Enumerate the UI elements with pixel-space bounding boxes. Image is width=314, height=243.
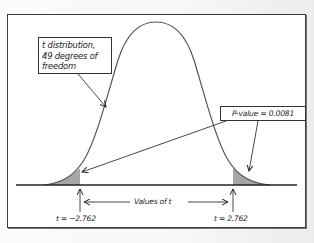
pvalue-right-arrow	[249, 121, 258, 171]
right-tail-shade	[233, 168, 270, 185]
diagram-canvas: t distribution, 49 degrees of freedom P-…	[0, 0, 314, 243]
distribution-pointer-arrow	[78, 74, 106, 107]
distribution-label-line1: t distribution,	[42, 40, 108, 51]
axis-caption: Values of t	[134, 197, 171, 206]
distribution-label-line2: 49 degrees of	[42, 51, 108, 62]
left-critical-value: t = −2.762	[56, 214, 96, 223]
pvalue-left-arrow	[82, 121, 226, 172]
distribution-label-line3: freedom	[42, 61, 108, 72]
right-critical-value: t = 2.762	[214, 214, 248, 223]
distribution-label: t distribution, 49 degrees of freedom	[38, 37, 112, 74]
pvalue-label: P-value = 0.0081	[220, 106, 306, 121]
left-tail-shade	[44, 168, 80, 185]
